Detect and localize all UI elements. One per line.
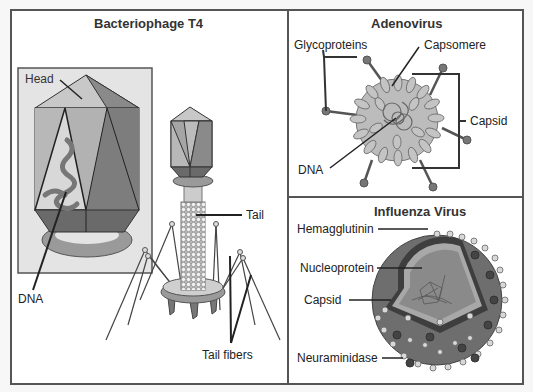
label-glycoproteins: Glycoproteins — [294, 38, 367, 52]
label-capsid-adeno: Capsid — [470, 114, 507, 128]
phage-head-inset — [18, 68, 152, 273]
adenovirus-title: Adenovirus — [371, 16, 443, 31]
label-head: Head — [25, 72, 54, 86]
virus-illustrations — [0, 0, 533, 392]
influenza-illustration — [372, 231, 508, 371]
label-tail-fibers: Tail fibers — [202, 348, 253, 362]
phage-title: Bacteriophage T4 — [94, 16, 203, 31]
influenza-title: Influenza Virus — [374, 204, 466, 219]
label-hemagglutinin: Hemagglutinin — [297, 222, 374, 236]
label-capsid-influenza: Capsid — [304, 293, 341, 307]
label-capsomere: Capsomere — [424, 38, 486, 52]
label-neuraminidase: Neuraminidase — [297, 351, 378, 365]
adenovirus-illustration — [322, 50, 471, 191]
label-tail: Tail — [246, 208, 264, 222]
label-nucleoprotein: Nucleoprotein — [300, 261, 374, 275]
label-dna-phage: DNA — [18, 292, 43, 306]
label-dna-adeno: DNA — [298, 163, 323, 177]
